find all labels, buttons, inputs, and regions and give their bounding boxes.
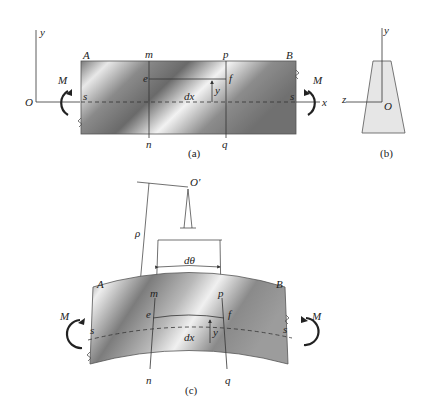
dx-label-c: dx: [184, 331, 195, 343]
section-p-label: p: [222, 48, 229, 60]
section-origin-label: O: [384, 100, 392, 112]
corner-a-label: A: [82, 49, 90, 61]
neutral-s-left-label: s: [83, 90, 87, 102]
caption-c: (c): [185, 384, 198, 397]
moment-left-label: M: [57, 74, 68, 86]
section-m-label: m: [145, 48, 153, 60]
rho-label: ρ: [134, 227, 140, 239]
neutral-s-right-label: s: [290, 90, 294, 102]
center-reference-line: [137, 182, 188, 187]
x-axis-label: x: [321, 96, 327, 108]
corner-a-label-c: A: [96, 278, 104, 290]
section-n-label-c: n: [146, 374, 152, 386]
fiber-e-label: e: [143, 72, 148, 84]
y-axis-label: y: [39, 26, 45, 38]
y-distance-label: y: [214, 84, 220, 96]
bending-diagram: y O x A m p B e f y dx s s n q M: [0, 0, 427, 406]
radial-line-left: [184, 189, 188, 228]
moment-right-arrow-c: [304, 318, 319, 345]
panel-a: y O x A m p B e f y dx s s n q M: [25, 26, 327, 160]
caption-a: (a): [188, 147, 201, 160]
corner-b-label: B: [286, 49, 293, 61]
panel-c: O′ dθ ρ A m p B e f y dx s: [59, 176, 322, 397]
corner-b-label-c: B: [276, 278, 283, 290]
neutral-s-left-label-c: s: [90, 324, 94, 336]
moment-right-arrow: [308, 91, 315, 115]
section-q-label-c: q: [225, 374, 231, 386]
moment-left-arrow: [61, 91, 68, 115]
caption-b: (b): [380, 147, 393, 160]
dx-label: dx: [184, 90, 195, 102]
panel-b: y z O (b): [341, 24, 405, 160]
fiber-e-label-c: e: [146, 308, 151, 320]
section-z-label: z: [341, 93, 347, 105]
y-distance-label-c: y: [212, 326, 218, 338]
moment-right-label: M: [312, 74, 323, 86]
neutral-s-right-label-c: s: [283, 323, 287, 335]
radial-line-right: [188, 189, 192, 228]
section-m-label-c: m: [150, 287, 158, 299]
moment-left-label-c: M: [59, 310, 70, 322]
center-label: O′: [190, 176, 201, 188]
moment-left-arrow-c: [67, 320, 82, 348]
origin-label: O: [25, 96, 33, 108]
section-q-label: q: [222, 138, 228, 150]
section-p-label-c: p: [217, 287, 224, 299]
trapezoid-cross-section: [362, 61, 405, 133]
dtheta-label: dθ: [184, 254, 196, 266]
beam-bent: [90, 273, 288, 365]
section-n-label: n: [146, 138, 152, 150]
moment-right-label-c: M: [311, 310, 322, 322]
section-y-label: y: [383, 24, 389, 36]
